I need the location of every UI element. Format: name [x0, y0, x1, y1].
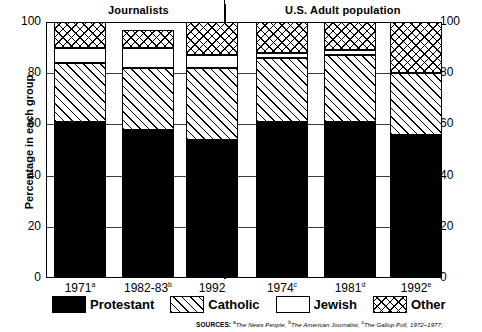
y-tick-left-100: 100	[7, 15, 41, 27]
legend-item-jewish: Jewish	[276, 296, 357, 313]
group-header-us-adult-population: U.S. Adult population	[285, 4, 401, 16]
bar-segment-protestant	[122, 130, 174, 278]
legend-item-other: Other	[373, 296, 446, 313]
bar-1971-0	[54, 22, 106, 278]
white-swatch	[276, 296, 310, 313]
cross-hatch-swatch	[373, 296, 407, 313]
legend-item-catholic: Catholic	[170, 296, 259, 313]
bar-1992-5	[390, 22, 442, 278]
legend-item-protestant: Protestant	[52, 296, 154, 313]
bar-1974-3	[256, 22, 308, 278]
bar-segment-catholic	[122, 68, 174, 129]
bar-segment-protestant	[390, 135, 442, 278]
bar-segment-catholic	[54, 63, 106, 122]
x-tick-5: 1992e	[376, 281, 456, 295]
legend-label-jewish: Jewish	[314, 297, 357, 312]
bar-segment-protestant	[186, 140, 238, 278]
bar-segment-jewish	[54, 48, 106, 63]
bar-segment-other	[256, 22, 308, 53]
bar-segment-catholic	[390, 73, 442, 134]
bar-segment-jewish	[324, 50, 376, 55]
y-tick-left-60: 60	[7, 117, 41, 129]
group-header-journalists: Journalists	[108, 4, 169, 16]
y-tick-left-80: 80	[7, 66, 41, 78]
source-text-a: The News People,	[236, 322, 288, 328]
y-tick-right-40: 40	[440, 169, 478, 181]
bar-segment-catholic	[256, 58, 308, 122]
y-tick-right-20: 20	[440, 220, 478, 232]
bar-segment-protestant	[54, 122, 106, 278]
y-tick-left-0: 0	[7, 271, 41, 283]
y-tick-right-60: 60	[440, 117, 478, 129]
bar-segment-catholic	[186, 68, 238, 140]
bar-segment-jewish	[122, 48, 174, 68]
bar-segment-catholic	[324, 55, 376, 122]
x-tick-2: 1992	[172, 281, 252, 295]
legend-label-catholic: Catholic	[208, 297, 259, 312]
bar-segment-other	[186, 22, 238, 55]
sources-note: SOURCES: aThe News People, bThe American…	[196, 319, 443, 328]
bar-segment-other	[390, 22, 442, 73]
chart-legend: ProtestantCatholicJewishOther	[52, 296, 455, 313]
bar-segment-protestant	[324, 122, 376, 278]
source-text-b: The American Journalist,	[291, 322, 361, 328]
bar-segment-protestant	[256, 122, 308, 278]
y-tick-right-80: 80	[440, 66, 478, 78]
bar-segment-other	[122, 30, 174, 48]
sources-label: SOURCES:	[196, 321, 231, 328]
y-tick-left-20: 20	[7, 220, 41, 232]
sources-entries: aThe News People, bThe American Journali…	[233, 322, 443, 328]
bar-1981-4	[324, 22, 376, 278]
diagonal-hatch-swatch	[170, 296, 204, 313]
bar-1982-83-1	[122, 22, 174, 278]
source-text-c: The Gallup Poll, 1972–1977;	[364, 322, 443, 328]
bar-segment-other	[324, 22, 376, 50]
legend-label-protestant: Protestant	[90, 297, 154, 312]
solid-black-swatch	[52, 296, 86, 313]
y-tick-left-40: 40	[7, 169, 41, 181]
legend-label-other: Other	[411, 297, 446, 312]
bar-segment-jewish	[256, 53, 308, 58]
y-tick-right-100: 100	[440, 15, 478, 27]
religious-affiliation-stacked-bar-chart: Journalists U.S. Adult population Percen…	[0, 0, 482, 332]
bar-segment-other	[54, 22, 106, 48]
bar-1992-2	[186, 22, 238, 278]
bar-segment-jewish	[186, 55, 238, 68]
